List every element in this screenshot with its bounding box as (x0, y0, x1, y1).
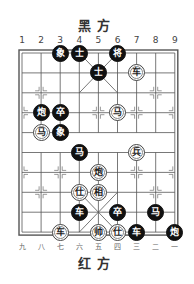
red-piece[interactable]: 仕 (71, 184, 88, 201)
file-label-bottom: 九 (15, 241, 29, 251)
black-piece[interactable]: 将 (109, 45, 126, 62)
red-piece[interactable]: 帅 (90, 224, 107, 241)
black-piece[interactable]: 马 (71, 144, 88, 161)
black-piece[interactable]: 象 (52, 45, 69, 62)
red-piece[interactable]: 炮 (90, 164, 107, 181)
red-piece[interactable]: 车 (52, 224, 69, 241)
file-label-bottom: 六 (72, 241, 86, 251)
red-side-title: 红方 (0, 253, 194, 272)
file-label-bottom: 二 (149, 241, 163, 251)
black-piece[interactable]: 炮 (166, 224, 183, 241)
black-piece[interactable]: 炮 (33, 104, 50, 121)
black-piece[interactable]: 车 (71, 204, 88, 221)
file-label-bottom: 五 (91, 241, 105, 251)
black-piece[interactable]: 象 (52, 124, 69, 141)
black-piece[interactable]: 车 (128, 224, 145, 241)
file-label-bottom: 四 (111, 241, 125, 251)
black-piece[interactable]: 卒 (52, 104, 69, 121)
red-piece[interactable]: 马 (33, 124, 50, 141)
red-piece[interactable]: 兵 (128, 144, 145, 161)
file-label-bottom: 一 (168, 241, 182, 251)
red-piece[interactable]: 相 (90, 184, 107, 201)
file-label-bottom: 八 (34, 241, 48, 251)
file-label-bottom: 七 (53, 241, 67, 251)
red-piece[interactable]: 仕 (109, 224, 126, 241)
file-label-bottom: 三 (130, 241, 144, 251)
black-piece[interactable]: 士 (71, 45, 88, 62)
black-piece[interactable]: 马 (147, 204, 164, 221)
black-piece[interactable]: 卒 (109, 204, 126, 221)
